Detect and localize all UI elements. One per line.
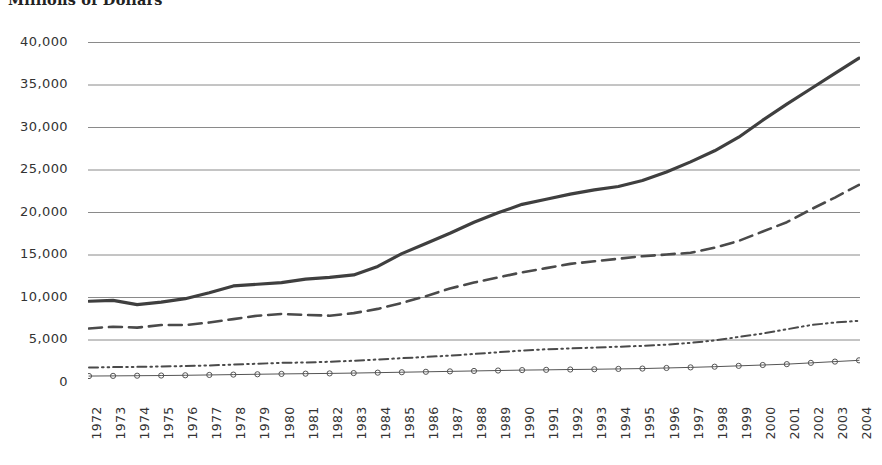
x-tick-label: 1974 (137, 406, 152, 439)
x-axis: 1972197319741975197619771978197919801981… (88, 385, 860, 465)
x-tick-label: 1977 (209, 406, 224, 439)
x-tick: 1997 (684, 385, 698, 445)
x-tick: 2001 (780, 385, 794, 445)
chart-svg (88, 42, 860, 382)
x-tick: 1976 (178, 385, 192, 445)
x-tick: 1987 (443, 385, 457, 445)
x-tick-label: 1987 (450, 406, 465, 439)
chart-title: Millions of Dollars (8, 0, 163, 8)
x-tick-label: 1986 (426, 406, 441, 439)
y-tick-label: 25,000 (0, 161, 68, 176)
y-tick-label: 20,000 (0, 204, 68, 219)
x-tick-label: 1990 (522, 406, 537, 439)
x-tick-label: 1999 (739, 406, 754, 439)
x-tick-label: 1983 (354, 406, 369, 439)
x-tick-label: 1979 (257, 406, 272, 439)
y-tick-label: 5,000 (0, 331, 68, 346)
x-tick-label: 1975 (161, 406, 176, 439)
x-tick-label: 1996 (667, 406, 682, 439)
x-tick-label: 1973 (113, 406, 128, 439)
y-tick-label: 15,000 (0, 246, 68, 261)
x-tick-label: 1998 (715, 406, 730, 439)
chart-container: Millions of Dollars 40,000 35,000 30,000… (0, 0, 882, 465)
x-tick: 1995 (635, 385, 649, 445)
x-tick-label: 1984 (378, 406, 393, 439)
y-tick-label: 40,000 (0, 34, 68, 49)
gridlines (88, 43, 860, 383)
x-tick: 1996 (660, 385, 674, 445)
x-tick: 1992 (563, 385, 577, 445)
x-tick: 1975 (154, 385, 168, 445)
y-tick-label: 10,000 (0, 289, 68, 304)
y-tick-label: 30,000 (0, 119, 68, 134)
x-tick-label: 2002 (811, 406, 826, 439)
x-tick-label: 1993 (594, 406, 609, 439)
x-tick: 1985 (395, 385, 409, 445)
x-tick-label: 2001 (787, 406, 802, 439)
x-tick: 1988 (467, 385, 481, 445)
y-tick-label: 35,000 (0, 76, 68, 91)
x-tick: 1998 (708, 385, 722, 445)
x-tick-label: 1991 (546, 406, 561, 439)
x-tick: 1978 (226, 385, 240, 445)
y-tick-label: 0 (0, 374, 68, 389)
series-line-1 (89, 58, 859, 305)
x-tick-label: 1997 (691, 406, 706, 439)
x-tick-label: 2000 (763, 406, 778, 439)
x-tick-label: 1985 (402, 406, 417, 439)
plot-area (88, 42, 860, 382)
x-tick: 1986 (419, 385, 433, 445)
series-layer (88, 58, 860, 379)
x-tick: 1991 (539, 385, 553, 445)
x-tick: 1980 (275, 385, 289, 445)
x-tick-label: 1981 (306, 406, 321, 439)
x-tick-label: 1972 (89, 406, 104, 439)
x-tick-label: 1976 (185, 406, 200, 439)
series-line-2 (89, 185, 859, 329)
x-tick: 1977 (202, 385, 216, 445)
x-tick-label: 1992 (570, 406, 585, 439)
x-tick: 1982 (323, 385, 337, 445)
x-tick-label: 1988 (474, 406, 489, 439)
x-tick: 2000 (756, 385, 770, 445)
x-tick: 1990 (515, 385, 529, 445)
x-tick-label: 1989 (498, 406, 513, 439)
x-tick: 1999 (732, 385, 746, 445)
x-tick: 1979 (250, 385, 264, 445)
x-tick: 1973 (106, 385, 120, 445)
x-tick: 2002 (804, 385, 818, 445)
x-tick: 1993 (587, 385, 601, 445)
x-tick: 2004 (852, 385, 866, 445)
x-tick: 1981 (299, 385, 313, 445)
x-tick: 1984 (371, 385, 385, 445)
x-tick: 1974 (130, 385, 144, 445)
x-tick: 1983 (347, 385, 361, 445)
x-tick-label: 1978 (233, 406, 248, 439)
x-tick: 1989 (491, 385, 505, 445)
x-tick: 2003 (828, 385, 842, 445)
series-line-3 (89, 321, 859, 368)
x-tick-label: 1995 (642, 406, 657, 439)
x-tick: 1972 (82, 385, 96, 445)
x-tick-label: 2003 (835, 406, 850, 439)
x-tick-label: 2004 (859, 406, 874, 439)
x-tick-label: 1994 (618, 406, 633, 439)
x-tick: 1994 (611, 385, 625, 445)
x-tick-label: 1982 (330, 406, 345, 439)
x-tick-label: 1980 (282, 406, 297, 439)
